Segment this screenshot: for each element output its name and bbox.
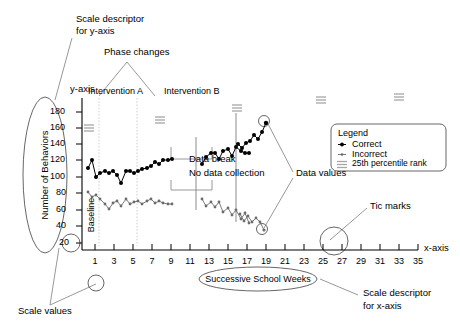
x-tick-group (95, 244, 418, 250)
x-tick-label-11: 11 (185, 256, 194, 266)
legend-item-correct-label: Correct (352, 139, 382, 149)
y-tick-label-40: 40 (56, 220, 66, 230)
y-tick-label-140: 140 (50, 138, 65, 148)
x-tick-label-29: 29 (356, 256, 366, 266)
x-tick-label-17: 17 (242, 256, 252, 266)
percentile-mark-2 (155, 117, 165, 123)
label-tic-marks: Tic marks (370, 201, 411, 212)
y-tick-label-180: 180 (50, 106, 65, 116)
percentile-mark-5 (394, 94, 404, 100)
x-tick-label-25: 25 (318, 256, 328, 266)
incorrect-markers (87, 191, 266, 232)
percentile-mark-3 (232, 105, 242, 111)
label-no-data-collection: No data collection (189, 168, 265, 179)
figure-root: Scale descriptor for y-axis Phase change… (0, 0, 460, 324)
series-incorrect (87, 191, 266, 232)
y-tick-label-80: 80 (56, 187, 66, 197)
percentile-mark-4 (316, 97, 326, 103)
x-tick-label-33: 33 (394, 256, 404, 266)
y-tick-label-120: 120 (50, 154, 65, 164)
y-tick-label-20: 20 (59, 237, 69, 247)
label-x-axis: x-axis (424, 243, 449, 254)
y-tick-label-100: 100 (50, 171, 65, 181)
circle-data-value-correct (259, 116, 270, 127)
legend-marker-incorrect-dot (341, 153, 344, 156)
x-tick-label-9: 9 (168, 256, 173, 266)
x-tick-label-31: 31 (375, 256, 385, 266)
label-baseline: Baseline (86, 198, 96, 233)
leader-data-break-upper (171, 147, 186, 159)
label-scale-descriptor-x-line2: for x-axis (363, 301, 402, 312)
leader-scale-descriptor-x (320, 279, 358, 295)
label-data-values: Data values (296, 168, 346, 179)
circle-tic-mark (320, 227, 348, 255)
leader-data-values-lower (264, 178, 293, 228)
circle-scale-value-3 (88, 275, 104, 291)
label-scale-descriptor-y-line1: Scale descriptor (76, 14, 144, 25)
x-tick-label-15: 15 (223, 256, 233, 266)
legend-item-percentile-label: 25th percentile rank (352, 159, 427, 169)
label-scale-values: Scale values (18, 306, 72, 317)
x-tick-label-1: 1 (92, 256, 97, 266)
label-phase-changes: Phase changes (104, 47, 170, 58)
x-tick-label-3: 3 (111, 256, 116, 266)
y-tick-label-60: 60 (56, 204, 66, 214)
legend-marker-correct-dot (340, 143, 344, 147)
label-intervention-b: Intervention B (164, 86, 220, 96)
label-data-break: Data break (189, 154, 235, 165)
leader-nodata-lower (171, 180, 186, 190)
leader-data-values-upper (267, 122, 293, 172)
label-scale-descriptor-x-line1: Scale descriptor (363, 288, 431, 299)
label-successive-school-weeks: Successive School Weeks (205, 274, 310, 284)
label-intervention-a: Intervention A (88, 86, 143, 96)
x-tick-label-21: 21 (280, 256, 290, 266)
x-tick-label-13: 13 (204, 256, 214, 266)
x-tick-label-5: 5 (130, 256, 135, 266)
y-tick-label-160: 160 (50, 122, 65, 132)
x-tick-label-27: 27 (337, 256, 347, 266)
percentile-mark-1 (84, 125, 94, 131)
x-tick-label-35: 35 (413, 256, 423, 266)
y-axis-title: Number of Behaviors (40, 130, 51, 219)
leader-tic-marks (330, 208, 367, 240)
label-scale-descriptor-y-line2: for y-axis (76, 26, 115, 37)
x-tick-label-7: 7 (149, 256, 154, 266)
x-tick-label-19: 19 (261, 256, 271, 266)
leader-scale-values-20 (50, 248, 59, 305)
leader-nodata-lower2 (186, 180, 212, 190)
x-tick-label-23: 23 (299, 256, 309, 266)
legend-title: Legend (338, 128, 368, 138)
